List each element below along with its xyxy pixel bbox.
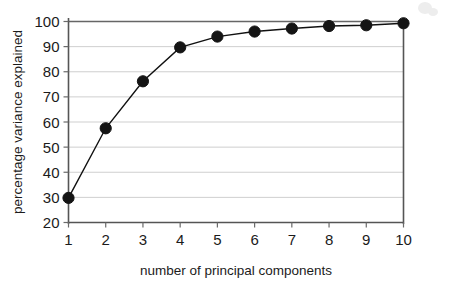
x-tick-label: 10 (395, 231, 412, 248)
y-tick-label: 100 (34, 13, 59, 30)
x-tick-label: 9 (362, 231, 370, 248)
data-point-marker (100, 123, 111, 134)
y-tick-label: 30 (43, 189, 60, 206)
data-point-marker (63, 192, 74, 203)
x-axis-title: number of principal components (140, 263, 332, 278)
data-point-marker (175, 42, 186, 53)
x-tick-labels: 12345678910 (64, 231, 412, 248)
x-tick-label: 2 (102, 231, 110, 248)
x-tick-label: 6 (250, 231, 258, 248)
data-point-marker (361, 20, 372, 31)
data-point-marker (323, 20, 334, 31)
plot-frame (68, 18, 404, 224)
data-point-marker (212, 31, 223, 42)
x-tick-label: 5 (213, 231, 221, 248)
y-tick-label: 60 (43, 114, 60, 131)
series-line (69, 23, 404, 198)
x-tick-label: 1 (64, 231, 72, 248)
scan-artifact (418, 2, 438, 16)
chart-canvas: 2030405060708090100 12345678910 number o… (0, 0, 462, 288)
y-tick-label: 70 (43, 88, 60, 105)
data-point-marker (249, 26, 260, 37)
x-tick-label: 3 (139, 231, 147, 248)
gridlines (69, 47, 404, 198)
x-tick-label: 7 (288, 231, 296, 248)
y-tick-label: 90 (43, 38, 60, 55)
y-tick-label: 20 (43, 214, 60, 231)
y-tick-label: 40 (43, 164, 60, 181)
y-axis-title: percentage variance explained (10, 30, 25, 214)
series-markers (63, 18, 409, 204)
data-point-marker (286, 23, 297, 34)
y-tick-label: 50 (43, 139, 60, 156)
scree-plot-figure: 2030405060708090100 12345678910 number o… (0, 0, 462, 288)
x-tick-label: 4 (176, 231, 184, 248)
x-tick-label: 8 (325, 231, 333, 248)
y-tick-label: 80 (43, 63, 60, 80)
data-point-marker (137, 76, 148, 87)
data-point-marker (398, 18, 409, 29)
y-tick-labels: 2030405060708090100 (34, 13, 59, 231)
